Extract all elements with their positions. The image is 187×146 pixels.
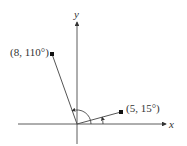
segment-point-1 [52,54,77,124]
polar-diagram: x y (8, 110°) (5, 15°) [0,0,187,146]
point-2-marker [119,110,123,114]
point-1-label: (8, 110°) [10,46,49,59]
y-axis-label: y [73,8,79,20]
segment-point-2 [77,112,121,124]
point-2-label: (5, 15°) [126,102,160,115]
angle-arc-15 [102,117,103,124]
point-1-marker [50,52,54,56]
x-axis-label: x [168,118,174,130]
